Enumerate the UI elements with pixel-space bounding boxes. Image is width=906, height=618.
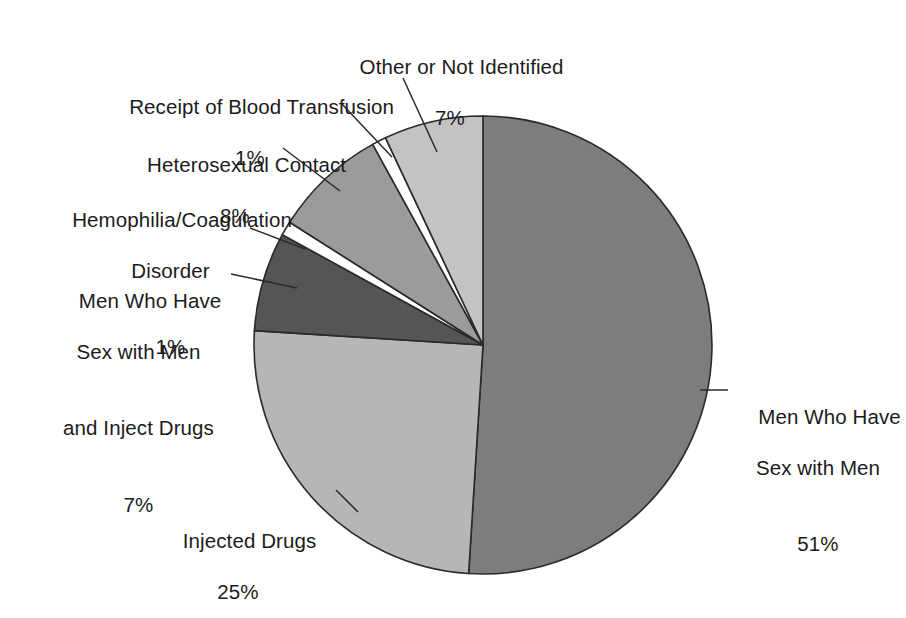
label-men-who-have-sex-with-men: Men Who Have Sex with Men 51% <box>730 378 906 608</box>
label-heterosexual-contact-text: Heterosexual Contact <box>147 153 346 176</box>
label-hemophilia-line1: Hemophilia/Coagulation <box>72 208 292 231</box>
label-men-who-have-sex-with-men-line1: Men Who Have <box>758 405 900 428</box>
label-men-who-have-sex-with-men-line2: Sex with Men <box>730 455 906 481</box>
pie-chart-figure: Other or Not Identified 7% Receipt of Bl… <box>0 0 906 618</box>
label-men-who-have-sex-with-men-percent: 51% <box>730 531 906 557</box>
label-msm-and-inject-drugs-line2: Sex with Men <box>36 339 241 365</box>
pie-slice-men-who-have-sex-with-men[interactable] <box>469 116 712 574</box>
label-msm-and-inject-drugs-line3: and Inject Drugs <box>36 415 241 441</box>
label-injected-drugs-percent: 25% <box>140 579 336 605</box>
label-msm-and-inject-drugs-line1: Men Who Have <box>79 289 221 312</box>
label-receipt-of-blood-transfusion-text: Receipt of Blood Transfusion <box>129 95 394 118</box>
label-injected-drugs-text: Injected Drugs <box>183 529 317 552</box>
label-injected-drugs: Injected Drugs 25% <box>140 502 336 618</box>
